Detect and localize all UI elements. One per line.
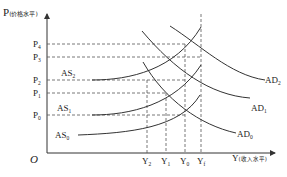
ad0-curve xyxy=(143,62,236,133)
y0-label: Y0 xyxy=(180,156,190,167)
ad0-label: AD0 xyxy=(237,129,253,140)
y2-label: Y2 xyxy=(142,156,152,167)
p0-label: P0 xyxy=(33,110,41,121)
p2-label: P2 xyxy=(33,75,41,86)
ad1-label: AD1 xyxy=(251,103,267,114)
ad2-label: AD2 xyxy=(265,75,281,86)
ad1-curve xyxy=(142,31,250,98)
as-ad-diagram: P(价格水平) O Y(收入水平) P4 P3 P2 P1 P0 Y2 Y1 Y… xyxy=(0,0,287,177)
p4-label: P4 xyxy=(33,39,41,50)
p3-label: P3 xyxy=(33,52,41,63)
y-axis-label: P(价格水平) xyxy=(3,6,38,18)
x-axis-label: Y(收入水平) xyxy=(232,153,267,163)
y1-label: Y1 xyxy=(161,156,171,167)
as0-label: AS0 xyxy=(55,130,70,141)
origin-label: O xyxy=(30,153,38,165)
yf-label: Yf xyxy=(197,156,206,167)
p1-label: P1 xyxy=(33,88,41,99)
as2-label: AS2 xyxy=(61,68,76,79)
as1-label: AS1 xyxy=(57,103,72,114)
